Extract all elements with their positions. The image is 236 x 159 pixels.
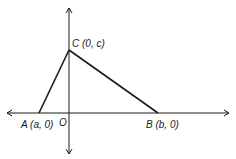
origin-label: O	[59, 117, 67, 128]
point-b-label: B (b, 0)	[146, 119, 179, 130]
point-a-label: A (a, 0)	[20, 119, 53, 130]
point-c-label: C (0, c)	[72, 38, 105, 49]
coordinate-diagram: C (0, c) A (a, 0) O B (b, 0)	[0, 0, 236, 159]
segment-cb	[69, 50, 158, 113]
segment-ac	[39, 50, 69, 113]
